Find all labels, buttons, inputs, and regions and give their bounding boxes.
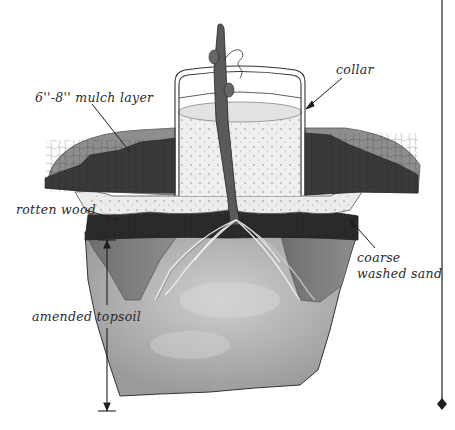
planting-diagram: 6''-8'' mulch layer collar rotten wood c… — [0, 0, 455, 430]
label-amended-topsoil: amended topsoil — [32, 309, 141, 324]
label-mulch-layer: 6''-8'' mulch layer — [35, 90, 153, 105]
margin-rule — [437, 0, 447, 410]
mulch-left — [45, 128, 175, 195]
label-collar: collar — [336, 62, 374, 77]
label-coarse: coarse — [357, 250, 401, 265]
collar-sand-fill — [178, 102, 302, 196]
diamond-marker-icon — [437, 398, 447, 410]
label-rotten-wood: rotten wood — [16, 202, 96, 217]
label-washed-sand: washed sand — [357, 266, 442, 281]
mulch-right — [305, 128, 420, 195]
